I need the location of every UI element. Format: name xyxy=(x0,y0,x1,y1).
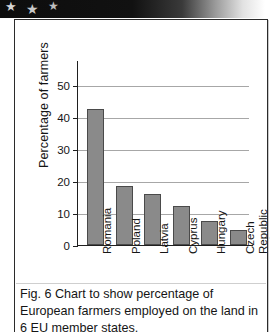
y-axis-tick xyxy=(73,150,78,151)
y-axis-line xyxy=(77,61,78,246)
x-axis-tick-label-line: Cyprus xyxy=(187,218,200,254)
x-axis-tick-label: CzechRepublic xyxy=(244,209,269,254)
x-axis-tick-label-line: Hungary xyxy=(215,211,228,254)
x-axis-tick-label: Hungary xyxy=(215,211,228,254)
x-axis-tick-label-line: Poland xyxy=(130,218,143,254)
y-axis-tick xyxy=(73,86,78,87)
x-axis-tick-label-line: Romania xyxy=(101,208,114,254)
star-icon: ★ xyxy=(5,0,17,13)
x-axis-tick-label: Romania xyxy=(101,208,114,254)
star-icon: ★ xyxy=(48,0,59,13)
plot-area: 50403020100 RomaniaPolandLatviaCyprusHun… xyxy=(77,70,249,246)
caption-divider xyxy=(16,283,266,284)
figure-caption: Fig. 6 Chart to show percentage of Europ… xyxy=(20,286,264,332)
y-axis-tick xyxy=(73,118,78,119)
y-axis-tick xyxy=(73,214,78,215)
y-axis-tick-label: 20 xyxy=(57,176,70,188)
x-axis-tick-label-line: Latvia xyxy=(158,223,171,254)
bar-chart: Percentage of farmers 50403020100 Romani… xyxy=(15,20,267,282)
y-axis-tick-label: 50 xyxy=(57,80,70,92)
x-axis-tick-label-line: Republic xyxy=(257,209,270,254)
figure-container: Percentage of farmers 50403020100 Romani… xyxy=(14,19,268,332)
y-axis-tick xyxy=(73,182,78,183)
x-axis-tick-label: Latvia xyxy=(158,223,171,254)
y-axis-title: Percentage of farmers xyxy=(37,20,51,190)
y-axis-tick xyxy=(73,246,78,247)
y-axis-tick-label: 30 xyxy=(57,144,70,156)
decorative-star-banner: ★ ★ ★ xyxy=(0,0,276,18)
y-axis-tick-label: 10 xyxy=(57,208,70,220)
x-axis-tick-label: Cyprus xyxy=(187,218,200,254)
gridline xyxy=(77,86,249,87)
x-axis-tick-label: Poland xyxy=(130,218,143,254)
y-axis-tick-label: 40 xyxy=(57,112,70,124)
star-icon: ★ xyxy=(26,3,39,16)
y-axis-tick-label: 0 xyxy=(64,240,70,252)
x-axis-tick-label-line: Czech xyxy=(244,209,257,254)
